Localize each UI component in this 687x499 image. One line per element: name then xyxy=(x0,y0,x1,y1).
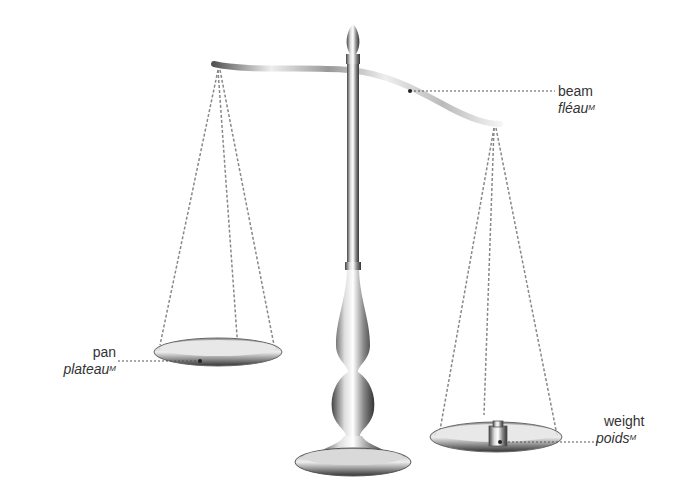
label-pan-fr: plateauM xyxy=(40,361,116,378)
label-weight-en: weight xyxy=(604,413,644,430)
label-beam-fr: fléauM xyxy=(558,100,595,117)
label-beam: beam fléauM xyxy=(558,83,595,117)
left-pan xyxy=(154,338,282,366)
label-pan: pan plateauM xyxy=(40,344,116,378)
left-chains xyxy=(160,70,274,350)
label-weight-fr: poidsM xyxy=(596,430,644,447)
label-pan-en: pan xyxy=(40,344,116,361)
label-beam-en: beam xyxy=(558,83,595,100)
label-weight: weight poidsM xyxy=(604,413,644,447)
balance-scale-illustration xyxy=(0,0,687,499)
right-chains xyxy=(440,128,556,430)
column xyxy=(295,24,411,476)
